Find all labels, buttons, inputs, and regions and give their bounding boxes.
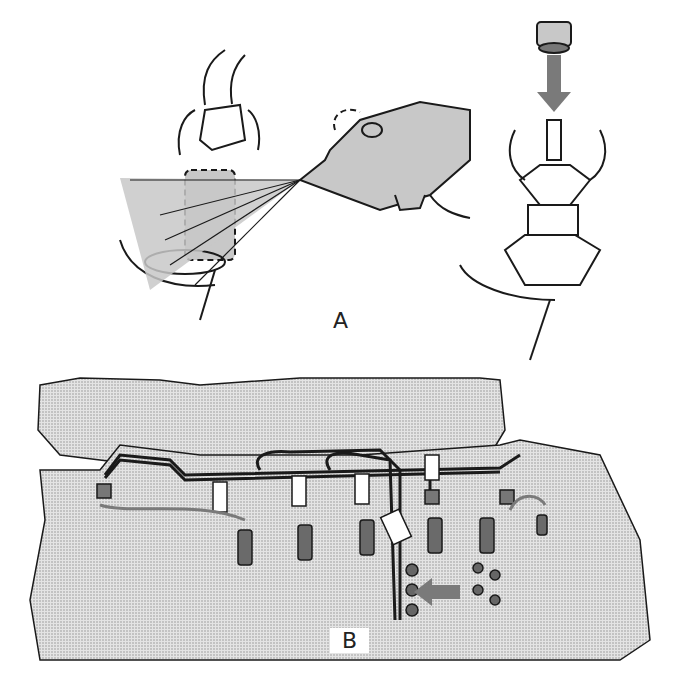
panel-a-illustration [120,22,605,360]
panel-label-b: B [330,628,369,653]
panel-b-illustration [30,378,650,660]
down-arrow-icon [537,55,571,112]
diagram-canvas [0,0,689,689]
panel-label-a: A [333,308,348,333]
